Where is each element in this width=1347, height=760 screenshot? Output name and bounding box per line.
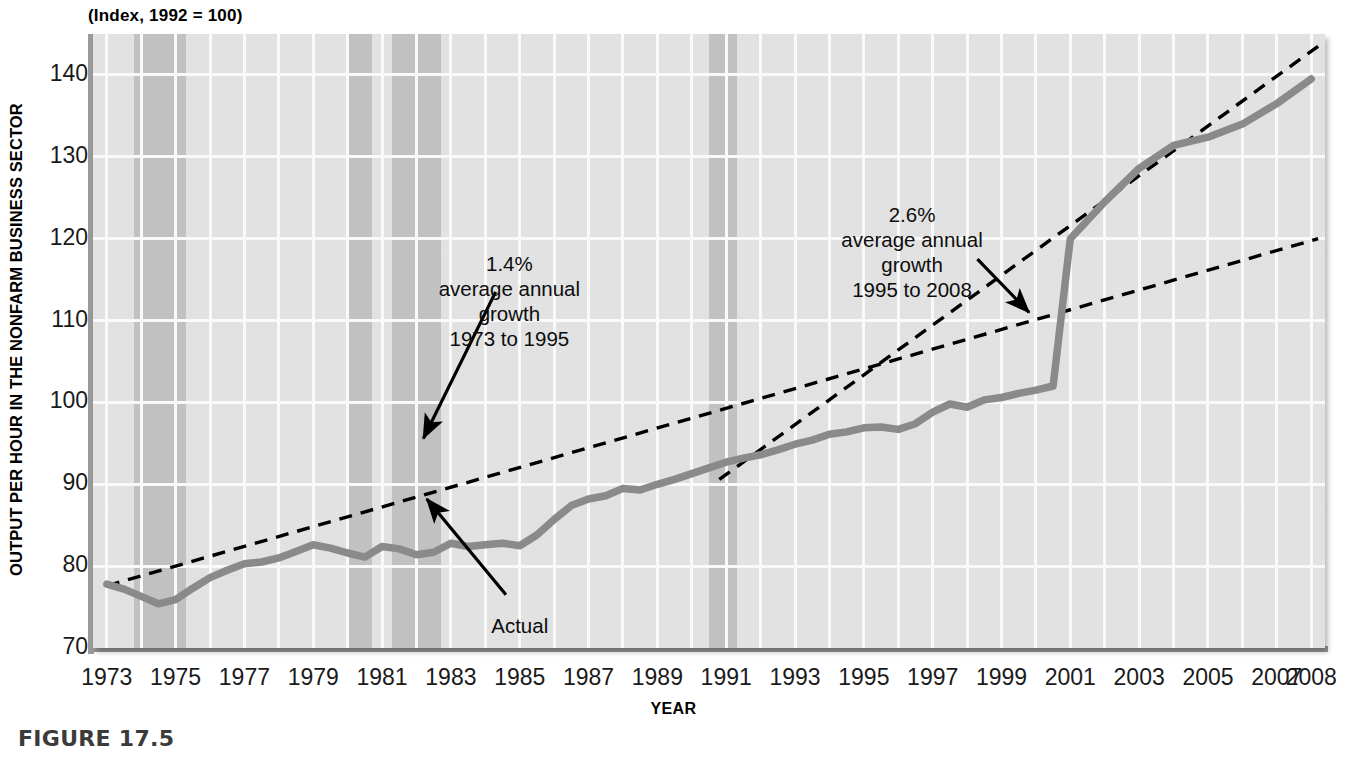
trend-line-1973-1995 <box>107 239 1318 586</box>
figure-caption: FIGURE 17.5 <box>18 726 174 751</box>
x-tick-label: 1985 <box>494 664 545 691</box>
annotation-arrow-1995-2008 <box>977 259 1029 312</box>
x-tick-label: 2003 <box>1114 664 1165 691</box>
x-tick-label: 1995 <box>838 664 889 691</box>
x-tick-label: 1993 <box>769 664 820 691</box>
annotation-growth-1995-2008: 2.6%average annualgrowth1995 to 2008 <box>841 202 982 302</box>
index-note: (Index, 1992 = 100) <box>88 6 243 26</box>
x-tick-label: 1977 <box>219 664 270 691</box>
x-tick-label: 1983 <box>425 664 476 691</box>
x-tick-label: 2005 <box>1182 664 1233 691</box>
annotation-growth-1973-1995: 1.4%average annualgrowth1973 to 1995 <box>439 251 580 351</box>
y-tick-label: 120 <box>28 224 88 251</box>
figure-root: (Index, 1992 = 100) OUTPUT PER HOUR IN T… <box>0 0 1347 760</box>
x-tick-label: 1999 <box>976 664 1027 691</box>
y-tick-label: 140 <box>28 60 88 87</box>
x-tick-label: 1991 <box>701 664 752 691</box>
annotation-line: growth <box>439 301 580 326</box>
x-tick-label: 2001 <box>1045 664 1096 691</box>
annotation-line: 1.4% <box>439 251 580 276</box>
x-axis-title: YEAR <box>0 700 1347 718</box>
y-tick-label: 70 <box>28 633 88 660</box>
x-tick-label: 1989 <box>632 664 683 691</box>
y-tick-label: 80 <box>28 551 88 578</box>
chart-series-layer <box>93 34 1325 648</box>
annotation-line: Actual <box>491 614 548 638</box>
annotation-line: 2.6% <box>841 202 982 227</box>
annotation-line: average annual <box>439 276 580 301</box>
x-tick-label: 1987 <box>563 664 614 691</box>
y-tick-label: 110 <box>28 306 88 333</box>
annotation-line: 1973 to 1995 <box>439 326 580 351</box>
x-tick-label: 1979 <box>288 664 339 691</box>
y-tick-label: 100 <box>28 387 88 414</box>
y-tick-label: 130 <box>28 142 88 169</box>
annotation-line: 1995 to 2008 <box>841 277 982 302</box>
y-tick-label: 90 <box>28 469 88 496</box>
annotation-actual-label: Actual <box>491 614 548 638</box>
actual-series-line <box>107 79 1311 604</box>
x-tick-label: 1981 <box>356 664 407 691</box>
x-tick-label: 1973 <box>81 664 132 691</box>
plot-area: 1.4%average annualgrowth1973 to 1995 2.6… <box>93 34 1325 648</box>
x-tick-label: 1997 <box>907 664 958 691</box>
x-tick-label: 2008 <box>1286 664 1337 691</box>
y-axis-tick-labels: 708090100110120130140 <box>22 0 88 760</box>
x-tick-label: 1975 <box>150 664 201 691</box>
annotation-line: average annual <box>841 227 982 252</box>
annotation-line: growth <box>841 252 982 277</box>
